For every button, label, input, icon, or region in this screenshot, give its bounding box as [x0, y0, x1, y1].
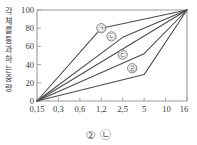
marker-label-㉡: ㉡ — [108, 33, 115, 41]
x-tick-label-0-15: 0,15 — [29, 104, 44, 114]
legend-glyph-2: ㉡ — [100, 130, 111, 141]
curve-group — [37, 10, 187, 101]
marker-label-㉠: ㉠ — [98, 25, 105, 33]
x-tick-label-1-2: 1,2 — [96, 104, 107, 114]
x-tick-label-5: 5 — [142, 104, 146, 114]
marker-label-㉣: ㉣ — [129, 65, 136, 73]
y-tick-label-40: 40 — [25, 60, 34, 70]
x-tick-label-10: 10 — [162, 104, 171, 114]
gradation-curve-figure: 각 체를 통과하는 중량 100 80 60 40 20 0 — [0, 0, 197, 145]
curve-marker-㉠: ㉠ — [97, 24, 106, 33]
y-tick-label-100: 100 — [21, 5, 34, 15]
x-tick-labels: 0,15 0,3 0,6 1,2 2,5 5 10 16 — [29, 104, 189, 114]
y-tick-marks — [37, 10, 41, 101]
curve-marker-㉢: ㉢ — [118, 50, 127, 59]
y-tick-label-60: 60 — [25, 41, 34, 51]
x-tick-label-2-5: 2,5 — [117, 104, 128, 114]
chart-plot-area: 100 80 60 40 20 0 0,15 0,3 0,6 1,2 2,5 5 — [0, 0, 197, 145]
curve-marker-㉡: ㉡ — [107, 32, 116, 41]
legend: ② ㉡ — [0, 126, 197, 144]
x-tick-label-0-3: 0,3 — [53, 104, 64, 114]
curve-baseline — [37, 10, 187, 101]
legend-glyph-1: ② — [86, 130, 96, 141]
y-tick-label-20: 20 — [25, 78, 34, 88]
x-tick-label-0-6: 0,6 — [75, 104, 86, 114]
curve-marker-㉣: ㉣ — [128, 64, 137, 73]
marker-label-㉢: ㉢ — [119, 51, 126, 59]
x-tick-label-16: 16 — [180, 104, 189, 114]
y-tick-labels: 100 80 60 40 20 0 — [21, 5, 34, 106]
y-tick-label-80: 80 — [25, 23, 34, 33]
